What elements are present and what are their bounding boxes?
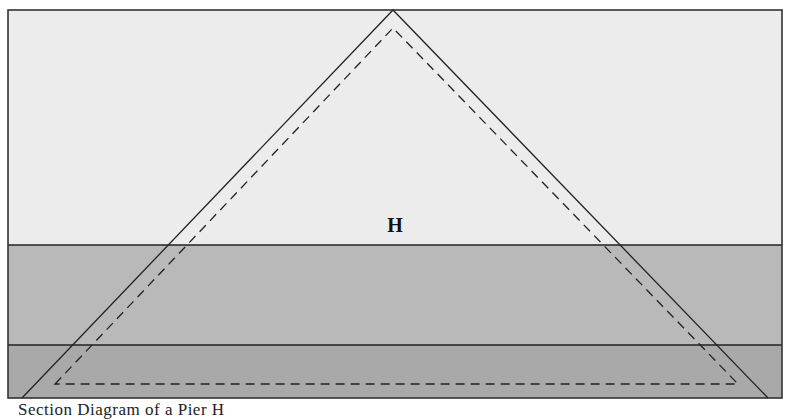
- middle-band: [8, 245, 782, 345]
- region-label-h: H: [387, 214, 403, 236]
- upper-zone: [8, 10, 782, 245]
- figure-caption: Section Diagram of a Pier H: [18, 400, 225, 420]
- lower-band: [8, 345, 782, 398]
